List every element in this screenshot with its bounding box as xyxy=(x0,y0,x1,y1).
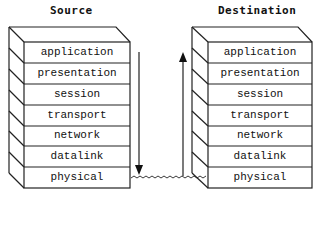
wavy-link xyxy=(131,176,206,178)
up-arrowhead-icon xyxy=(179,52,187,62)
destination-layer-application: application xyxy=(208,42,312,63)
source-layer-network: network xyxy=(24,125,130,146)
source-layer-presentation: presentation xyxy=(24,63,130,84)
destination-layer-transport: transport xyxy=(208,105,312,126)
source-layer-transport: transport xyxy=(24,105,130,126)
source-layer-application: application xyxy=(24,42,130,63)
source-layer-physical: physical xyxy=(24,167,130,188)
destination-layer-datalink: datalink xyxy=(208,146,312,167)
destination-layer-session: session xyxy=(208,84,312,105)
destination-layer-presentation: presentation xyxy=(208,63,312,84)
source-layer-datalink: datalink xyxy=(24,146,130,167)
destination-layer-network: network xyxy=(208,125,312,146)
down-arrowhead-icon xyxy=(135,165,143,175)
source-layer-session: session xyxy=(24,84,130,105)
destination-layer-physical: physical xyxy=(208,167,312,188)
